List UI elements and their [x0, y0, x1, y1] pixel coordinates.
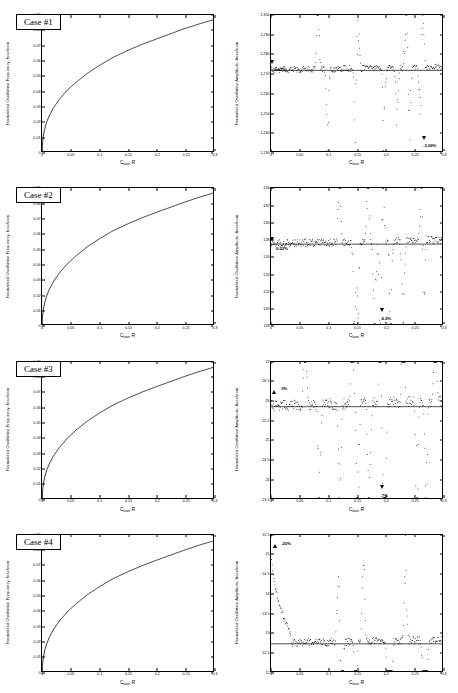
figure-row-case1: Normalized Oscillation Frequency, fosc/n…: [0, 0, 458, 173]
x-axis-tick-label: 0.3: [212, 672, 217, 676]
panel-case1-frequency: Normalized Oscillation Frequency, fosc/n…: [0, 0, 229, 173]
frequency-curve: [42, 188, 213, 324]
x-axis-tick-label: 0.25: [183, 499, 190, 503]
y-axis-tick-label: 1.270: [260, 72, 269, 76]
panel-case3-amplitude: Normalized Oscillation Amplitude, Aosc/n…: [229, 347, 458, 520]
plot-area: 1212.51313.51414.51515.500.050.10.150.20…: [270, 534, 443, 672]
y-axis-tick-label: 12: [265, 671, 269, 675]
x-axis-tick-label: 0: [270, 326, 272, 330]
y-axis-tick-label: 0.03: [33, 452, 40, 456]
y-axis-tick-label: 0.07: [33, 44, 40, 48]
x-axis-tick-mark: [444, 495, 445, 498]
y-axis-tick-label: 134: [263, 186, 269, 190]
y-axis-tick-label: 0.07: [33, 390, 40, 394]
annotation-percent-label: -6.5%: [380, 316, 391, 321]
x-axis-tick-label: 0: [270, 153, 272, 157]
x-axis-tick-mark: [444, 362, 445, 365]
figure-row-case2: Normalized Oscillation Frequency, fosc/n…: [0, 173, 458, 346]
y-axis-tick-label: 118: [264, 324, 270, 328]
x-axis-tick-label: 0.15: [354, 153, 361, 157]
x-axis-tick-label: 0.05: [67, 499, 74, 503]
plot-area: 00.010.020.030.040.050.060.070.080.0900.…: [41, 534, 214, 672]
y-axis-tick-label: 0.05: [33, 74, 40, 78]
y-axis-tick-label: 0.06: [33, 232, 40, 236]
annotation-marker-down: [422, 136, 426, 140]
x-axis-label: Claser·R: [270, 507, 443, 512]
x-axis-tick-label: 0.05: [67, 326, 74, 330]
annotation-marker-up: [273, 544, 277, 548]
frequency-curve: [42, 535, 213, 671]
y-axis-label-frequency: Normalized Oscillation Frequency, fosc/n…: [2, 361, 14, 499]
x-axis-tick-label: 0.15: [125, 326, 132, 330]
x-axis-tick-label: 0.15: [354, 326, 361, 330]
y-axis-tick-label: 1.250: [260, 112, 269, 116]
y-axis-tick-label: 24: [265, 478, 269, 482]
x-axis-tick-label: 0.3: [212, 153, 217, 157]
plot-area: 11812012212412612813013213400.050.10.150…: [270, 187, 443, 325]
y-axis-tick-label: 15.5: [262, 533, 269, 537]
y-axis-tick-label: 0.04: [33, 90, 40, 94]
x-axis-tick-mark: [215, 188, 216, 191]
plot-area: 1.2301.2401.2501.2601.2701.2801.2901.300…: [270, 14, 443, 152]
series-line: [42, 541, 213, 671]
x-axis-tick-mark: [215, 668, 216, 671]
x-axis-tick-label: 0.3: [212, 499, 217, 503]
x-axis-tick-label: 0.05: [296, 499, 303, 503]
y-axis-tick-label: 23.5: [262, 498, 269, 502]
panel-case3-frequency: Normalized Oscillation Frequency, fosc/n…: [0, 347, 229, 520]
y-axis-tick-label: 25.5: [262, 419, 269, 423]
x-axis-tick-label: 0.2: [155, 326, 160, 330]
x-axis-tick-label: 0.1: [326, 672, 331, 676]
x-axis-tick-label: 0.3: [441, 499, 446, 503]
x-axis-tick-label: 0: [41, 499, 43, 503]
case-label: Case #3: [16, 361, 61, 377]
frequency-curve: [42, 362, 213, 498]
x-axis-tick-label: 0.1: [97, 499, 102, 503]
x-axis-label: Claser·R: [270, 333, 443, 338]
x-axis-tick-label: 0.25: [412, 672, 419, 676]
y-axis-tick-label: 1.230: [260, 151, 269, 155]
y-axis-tick-label: 1.280: [260, 52, 269, 56]
x-axis-tick-label: 0.05: [296, 672, 303, 676]
annotation-percent-label: -20%: [281, 541, 291, 546]
x-axis-tick-label: 0.1: [326, 153, 331, 157]
x-axis-tick-mark: [215, 362, 216, 365]
figure-row-case4: Normalized Oscillation Frequency, fosc/n…: [0, 520, 458, 693]
y-axis-tick-label: 0.06: [33, 579, 40, 583]
x-axis-label: Claser·R: [270, 680, 443, 685]
x-axis-tick-label: 0.25: [412, 153, 419, 157]
y-axis-tick-label: 0.06: [33, 406, 40, 410]
y-axis-tick-label: 0.03: [33, 105, 40, 109]
x-axis-label: Claser·R: [41, 507, 214, 512]
y-axis-tick-label: 1.240: [260, 131, 269, 135]
annotation-percent-label: 0.03%: [274, 67, 286, 72]
series-line: [42, 193, 213, 324]
x-axis-tick-mark: [444, 322, 445, 325]
amplitude-scatter: [271, 535, 442, 671]
series-line: [42, 20, 213, 151]
annotation-percent-label: -3.00%: [423, 143, 436, 148]
x-axis-tick-mark: [215, 149, 216, 152]
y-axis-tick-label: 0.05: [33, 594, 40, 598]
y-axis-tick-label: 132: [263, 204, 269, 208]
x-axis-tick-label: 0.2: [384, 153, 389, 157]
y-axis-tick-label: 0.02: [33, 467, 40, 471]
x-axis-tick-label: 0.3: [441, 326, 446, 330]
y-axis-tick-label: 126: [263, 255, 269, 259]
x-axis-tick-label: 0.15: [354, 499, 361, 503]
x-axis-label: Claser·R: [41, 680, 214, 685]
x-axis-tick-label: 0.1: [326, 326, 331, 330]
frequency-curve: [42, 15, 213, 151]
scatter-points: [271, 15, 443, 151]
x-axis-tick-mark: [444, 668, 445, 671]
x-axis-tick-label: 0.1: [97, 153, 102, 157]
panel-case2-frequency: Normalized Oscillation Frequency, fosc/n…: [0, 173, 229, 346]
x-axis-tick-label: 0.1: [326, 499, 331, 503]
annotation-percent-label: -7%: [380, 493, 387, 498]
x-axis-tick-label: 0.15: [125, 672, 132, 676]
y-axis-tick-label: 13: [265, 631, 269, 635]
panel-case1-amplitude: Normalized Oscillation Amplitude, Aosc/n…: [229, 0, 458, 173]
y-axis-tick-label: 0.01: [33, 309, 40, 313]
x-axis-tick-label: 0.05: [67, 672, 74, 676]
y-axis-label-amplitude: Normalized Oscillation Amplitude, Aosc/n…: [231, 14, 243, 152]
